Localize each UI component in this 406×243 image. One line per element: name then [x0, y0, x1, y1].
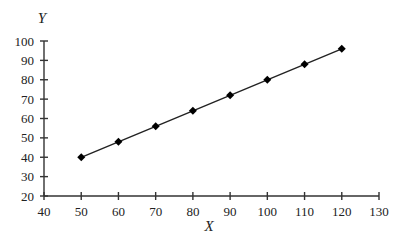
diamond-marker — [226, 91, 234, 99]
diamond-marker — [301, 60, 309, 68]
x-tick-label: 50 — [75, 204, 88, 219]
y-tick-label: 90 — [21, 53, 34, 68]
x-axis: 405060708090100110120130 — [38, 192, 389, 219]
x-tick-label: 120 — [332, 204, 352, 219]
diamond-marker — [338, 45, 346, 53]
x-tick-label: 60 — [112, 204, 125, 219]
diamond-marker — [114, 138, 122, 146]
diamond-marker — [263, 76, 271, 84]
x-tick-label: 80 — [186, 204, 199, 219]
y-tick-label: 80 — [21, 72, 34, 87]
y-axis-title: Y — [38, 10, 48, 26]
y-tick-label: 20 — [21, 189, 34, 204]
x-tick-label: 90 — [224, 204, 237, 219]
y-tick-label: 60 — [21, 111, 34, 126]
x-tick-label: 110 — [295, 204, 314, 219]
x-tick-label: 130 — [369, 204, 389, 219]
x-axis-title: X — [203, 218, 214, 234]
y-tick-label: 100 — [15, 34, 35, 49]
data-series — [77, 45, 346, 162]
y-axis: 2030405060708090100 — [15, 34, 49, 204]
x-tick-label: 70 — [149, 204, 162, 219]
x-tick-label: 40 — [38, 204, 51, 219]
line-chart: 2030405060708090100 40506070809010011012… — [0, 0, 406, 243]
x-tick-label: 100 — [258, 204, 278, 219]
y-tick-label: 30 — [21, 169, 34, 184]
y-tick-label: 70 — [21, 92, 34, 107]
y-tick-label: 50 — [21, 130, 34, 145]
diamond-marker — [152, 122, 160, 130]
y-tick-label: 40 — [21, 150, 34, 165]
diamond-marker — [77, 153, 85, 161]
chart-canvas: 2030405060708090100 40506070809010011012… — [0, 0, 406, 243]
diamond-marker — [189, 107, 197, 115]
